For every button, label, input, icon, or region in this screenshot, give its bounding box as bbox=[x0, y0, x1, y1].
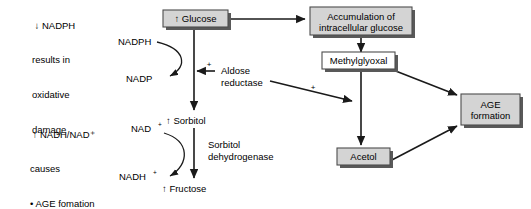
arrow-nadph-to-nadp bbox=[157, 42, 182, 76]
label-nadh-plus: NADH + bbox=[119, 169, 157, 182]
box-acetol-label: Acetol bbox=[350, 151, 376, 162]
label-nadp: NADP bbox=[126, 73, 152, 84]
label-sorbitol-dehydrogenase-line2: dehydrogenase bbox=[208, 151, 274, 162]
label-nadh-plus-superscript: + bbox=[153, 169, 157, 176]
label-fructose: ↑ Fructose bbox=[162, 183, 206, 194]
label-nadh-plus-text: NADH bbox=[119, 171, 146, 182]
box-accumulation: Accumulation of intracellular glucose bbox=[310, 7, 415, 38]
arrow-methylglyoxal-to-age bbox=[388, 68, 457, 95]
box-methylglyoxal-label: Methylglyoxal bbox=[330, 55, 388, 66]
label-sorbitol: ↑ Sorbitol bbox=[166, 115, 206, 126]
box-age-formation-label-line1: AGE bbox=[480, 99, 500, 110]
plus-sign-polyol-activation: + bbox=[207, 60, 212, 69]
box-methylglyoxal: Methylglyoxal bbox=[322, 52, 398, 72]
label-nadph: NADPH bbox=[118, 36, 151, 47]
label-sorbitol-dehydrogenase: Sorbitol dehydrogenase bbox=[208, 139, 274, 162]
label-aldose-reductase-line2: reductase bbox=[221, 77, 263, 88]
box-age-formation-label-line2: formation bbox=[471, 110, 511, 121]
arrow-acetol-to-age bbox=[390, 126, 457, 161]
label-aldose-reductase-line1: Aldose bbox=[221, 65, 250, 76]
note-nadph-line3: oxidative bbox=[24, 89, 75, 101]
box-accumulation-label-line1: Accumulation of bbox=[327, 11, 395, 22]
label-sorbitol-dehydrogenase-line1: Sorbitol bbox=[208, 139, 240, 150]
note-nadh-nad-ratio: ↑ NADH/NAD⁺ causes • AGE fomation • PKC … bbox=[22, 117, 98, 209]
pathway-diagram: ↑ Glucose Accumulation of intracellular … bbox=[0, 0, 531, 209]
box-accumulation-label-line2: intracellular glucose bbox=[319, 22, 403, 33]
label-nad-plus-text: NAD bbox=[131, 123, 151, 134]
box-glucose-label: ↑ Glucose bbox=[174, 13, 216, 24]
label-aldose-reductase: Aldose reductase bbox=[221, 65, 263, 88]
arrow-nad-to-nadh bbox=[164, 133, 184, 176]
label-nad-plus-superscript: + bbox=[158, 121, 162, 128]
plus-sign-acetol-activation: + bbox=[311, 83, 316, 92]
note-nadh-line1: ↑ NADH/NAD⁺ bbox=[33, 129, 95, 140]
box-glucose: ↑ Glucose bbox=[163, 10, 231, 30]
label-nad-plus: NAD + bbox=[131, 121, 162, 134]
note-nadh-line3: • AGE fomation bbox=[22, 198, 98, 209]
note-nadph-line2: results in bbox=[24, 54, 75, 66]
box-age-formation: AGE formation bbox=[461, 94, 523, 128]
note-nadh-line2: causes bbox=[22, 163, 98, 175]
note-nadph-line1: ↓ NADPH bbox=[35, 20, 76, 31]
box-acetol: Acetol bbox=[337, 148, 393, 168]
